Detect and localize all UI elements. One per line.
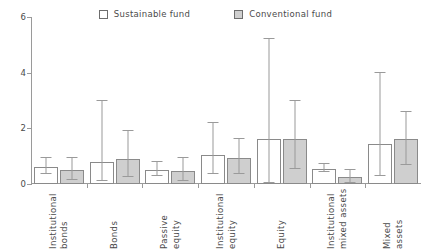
- bar-column: [257, 17, 281, 184]
- error-bar-cap-bottom: [152, 175, 163, 176]
- x-axis-label-line: Bonds: [110, 187, 119, 249]
- error-bar-cap-bottom: [319, 171, 330, 172]
- x-axis-label-line: Passive: [160, 187, 169, 249]
- error-bar-cap-top: [234, 138, 245, 139]
- error-bar-cap-bottom: [40, 173, 51, 174]
- bar-column: [368, 17, 392, 184]
- x-label-group: Bonds: [87, 186, 143, 249]
- bar-column: [90, 17, 114, 184]
- bar-group: [142, 17, 198, 184]
- x-label-group: Institutionalbonds: [31, 186, 87, 249]
- y-tick-label: 4: [21, 68, 26, 77]
- error-bar-cap-bottom: [66, 179, 77, 180]
- error-bar-cap-bottom: [178, 180, 189, 181]
- error-bar-cap-top: [263, 38, 274, 39]
- bar-column: [394, 17, 418, 184]
- x-axis-label-line: Institutional: [216, 187, 225, 249]
- bar-group: [87, 17, 143, 184]
- x-label-group: Mixedassets: [365, 186, 421, 249]
- x-label-group: Institutionalmixed assets: [310, 186, 366, 249]
- error-bar-cap-bottom: [289, 168, 300, 169]
- error-bar-cap-bottom: [345, 182, 356, 183]
- error-bar-cap-bottom: [234, 173, 245, 174]
- bar-group: [31, 17, 87, 184]
- x-axis-label: Institutionalbonds: [33, 187, 85, 249]
- bar-chart: Sustainable fund Conventional fund 0246 …: [0, 0, 431, 249]
- bar-group: [254, 17, 310, 184]
- error-bar-line: [294, 101, 295, 169]
- error-bar-cap-bottom: [263, 182, 274, 183]
- error-bar-cap-bottom: [375, 175, 386, 176]
- error-bar-cap-top: [319, 163, 330, 164]
- x-axis-label-line: Institutional: [327, 187, 336, 249]
- bar-pair: [144, 17, 196, 184]
- plot-area: 0246: [31, 17, 421, 184]
- x-axis-label-line: equity: [172, 187, 181, 249]
- error-bar-line: [380, 73, 381, 176]
- x-axis-label: Passiveequity: [144, 187, 196, 249]
- bar-group: [310, 17, 366, 184]
- error-bar-cap-bottom: [122, 176, 133, 177]
- x-label-group: Passiveequity: [142, 186, 198, 249]
- error-bar-cap-top: [66, 157, 77, 158]
- x-axis-label: Institutionalequity: [200, 187, 252, 249]
- bar-column: [201, 17, 225, 184]
- error-bar-cap-top: [178, 157, 189, 158]
- x-axis-label-line: equity: [228, 187, 237, 249]
- x-axis-label-line: mixed assets: [339, 187, 348, 249]
- x-label-group: Institutionalequity: [198, 186, 254, 249]
- x-axis-label: Institutionalmixed assets: [311, 187, 363, 249]
- bar-column: [60, 17, 84, 184]
- bar-column: [312, 17, 336, 184]
- x-label-group: Equity: [254, 186, 310, 249]
- x-axis-label-line: Equity: [277, 187, 286, 249]
- x-axis-label: Mixedassets: [367, 187, 419, 249]
- error-bar-line: [239, 139, 240, 174]
- bar-pair: [311, 17, 363, 184]
- error-bar-cap-top: [289, 100, 300, 101]
- x-axis-label-line: Institutional: [49, 187, 58, 249]
- error-bar-line: [71, 158, 72, 180]
- bar-column: [227, 17, 251, 184]
- error-bar-line: [101, 101, 102, 182]
- y-tick-label: 6: [21, 13, 26, 22]
- error-bar-cap-top: [40, 157, 51, 158]
- bar-groups: [31, 17, 421, 184]
- error-bar-line: [127, 131, 128, 177]
- error-bar-line: [157, 162, 158, 176]
- error-bar-cap-top: [375, 72, 386, 73]
- x-axis-label: Equity: [256, 187, 308, 249]
- error-bar-cap-top: [152, 161, 163, 162]
- x-axis-labels: InstitutionalbondsBondsPassiveequityInst…: [31, 186, 421, 249]
- error-bar-cap-bottom: [208, 173, 219, 174]
- y-tick-label: 2: [21, 124, 26, 133]
- error-bar-line: [268, 39, 269, 182]
- y-tick-label: 0: [21, 180, 26, 189]
- y-tick-mark: [27, 184, 32, 185]
- error-bar-cap-top: [208, 122, 219, 123]
- bar-pair: [200, 17, 252, 184]
- error-bar-cap-top: [122, 130, 133, 131]
- error-bar-line: [213, 123, 214, 174]
- error-bar-cap-bottom: [96, 180, 107, 181]
- error-bar-cap-top: [345, 169, 356, 170]
- error-bar-line: [406, 112, 407, 165]
- error-bar-line: [183, 158, 184, 181]
- x-axis-label: Bonds: [89, 187, 141, 249]
- error-bar-line: [45, 158, 46, 175]
- error-bar-cap-top: [401, 111, 412, 112]
- x-axis-label-line: Mixed: [383, 187, 392, 249]
- bar-column: [116, 17, 140, 184]
- error-bar-cap-top: [96, 100, 107, 101]
- bar-pair: [367, 17, 419, 184]
- bar-column: [171, 17, 195, 184]
- bar-pair: [256, 17, 308, 184]
- x-axis-label-line: assets: [395, 187, 404, 249]
- bar-pair: [89, 17, 141, 184]
- bar-column: [283, 17, 307, 184]
- bar-group: [198, 17, 254, 184]
- bar-column: [34, 17, 58, 184]
- error-bar-cap-bottom: [401, 164, 412, 165]
- bar-pair: [33, 17, 85, 184]
- bar-group: [365, 17, 421, 184]
